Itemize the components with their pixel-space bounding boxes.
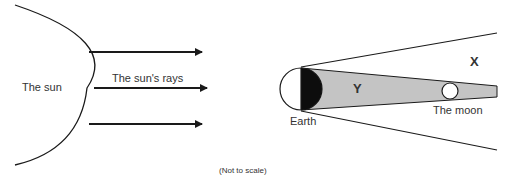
region-y-label: Y [353,81,362,96]
sun-rays-label: The sun's rays [112,72,184,84]
earth-label: Earth [290,115,316,127]
outer-cone-bottom-line [301,111,497,150]
region-x-label: X [470,54,479,69]
moon-label: The moon [433,104,483,116]
sun-label: The sun [22,81,62,93]
eclipse-diagram: The sun The sun's rays Earth The moon X … [0,0,512,191]
moon-circle [442,83,458,99]
outer-cone-top-line [301,33,497,67]
not-to-scale-note: (Not to scale) [219,166,267,175]
